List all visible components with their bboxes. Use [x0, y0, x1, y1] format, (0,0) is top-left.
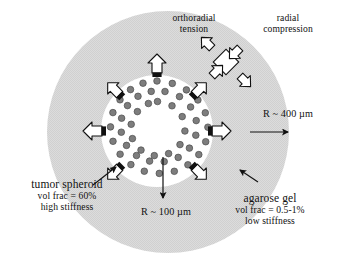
tumor-spheroid-title: tumor spheroid [2, 178, 132, 191]
agarose-gel-vol-frac: vol frac = 0.5-1% [205, 205, 335, 216]
label-inner-radius: R ~ 100 µm [118, 206, 214, 217]
label-orthoradial-tension: orthoradial tension [152, 13, 236, 34]
tumor-spheroid-stiffness: high stiffness [2, 202, 132, 213]
label-radial-compression: radial compression [243, 13, 333, 34]
tumor-spheroid-vol-frac: vol frac = 60% [2, 191, 132, 202]
orthoradial-tension-line2: tension [152, 24, 236, 35]
label-agarose-gel: agarose gel vol frac = 0.5-1% low stiffn… [205, 192, 335, 226]
label-outer-radius: R ~ 400 µm [245, 108, 331, 119]
radial-compression-line2: compression [243, 24, 333, 35]
agarose-gel-stiffness: low stiffness [205, 216, 335, 227]
diagram-canvas: orthoradial tension radial compression R… [0, 0, 337, 262]
agarose-gel-title: agarose gel [205, 192, 335, 205]
label-tumor-spheroid: tumor spheroid vol frac = 60% high stiff… [2, 178, 132, 212]
